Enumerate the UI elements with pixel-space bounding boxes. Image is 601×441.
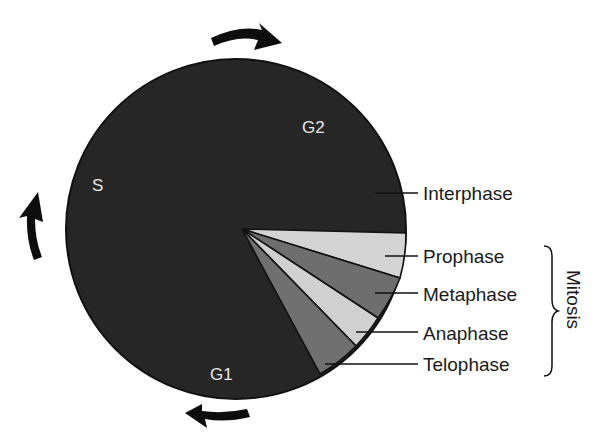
metaphase-label: Metaphase	[423, 284, 517, 305]
cell-cycle-diagram: Interphase Prophase Metaphase Anaphase T…	[0, 0, 601, 441]
telophase-label: Telophase	[423, 354, 510, 375]
prophase-label: Prophase	[423, 246, 504, 267]
g1-label: G1	[210, 365, 233, 384]
mitosis-label: Mitosis	[563, 270, 584, 329]
clockwise-arrow-left-icon	[19, 192, 43, 260]
anaphase-label: Anaphase	[423, 323, 509, 344]
clockwise-arrow-top-icon	[211, 23, 282, 50]
g2-label: G2	[302, 118, 325, 137]
mitosis-brace	[544, 246, 558, 376]
clockwise-arrow-bottom-icon	[185, 404, 250, 428]
interphase-label: Interphase	[423, 183, 513, 204]
s-label: S	[92, 176, 103, 195]
